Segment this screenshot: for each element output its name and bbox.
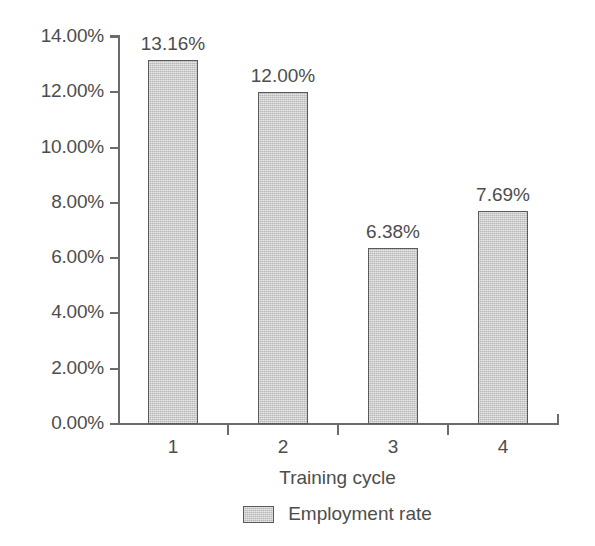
- y-tick-mark: [110, 147, 119, 149]
- bar-value-label: 12.00%: [223, 65, 343, 87]
- y-tick-mark: [110, 257, 119, 259]
- y-tick-mark: [110, 312, 119, 314]
- y-tick-label: 14.00%: [14, 25, 104, 47]
- y-tick-label: 2.00%: [14, 357, 104, 379]
- y-tick-label: 6.00%: [14, 246, 104, 268]
- y-tick-label: 8.00%: [14, 191, 104, 213]
- y-tick-label: 0.00%: [14, 412, 104, 434]
- y-tick-label: 12.00%: [14, 80, 104, 102]
- bar: [258, 92, 308, 424]
- x-axis-end-cap: [557, 414, 559, 425]
- legend-swatch-employment-rate: [243, 506, 274, 523]
- y-tick-mark: [110, 368, 119, 370]
- bar-value-label: 6.38%: [333, 221, 453, 243]
- x-tick-mark: [227, 425, 229, 435]
- bar: [148, 60, 198, 424]
- x-tick-mark: [337, 425, 339, 435]
- y-tick-mark: [110, 91, 119, 93]
- y-tick-mark: [110, 202, 119, 204]
- legend: Employment rate: [0, 503, 595, 525]
- x-tick-label: 1: [143, 436, 203, 458]
- x-axis-title: Training cycle: [0, 467, 595, 489]
- y-axis-line: [118, 35, 120, 425]
- x-axis-title-text: Training cycle: [279, 467, 396, 488]
- bar: [478, 211, 528, 424]
- y-tick-mark: [110, 423, 119, 425]
- bar-chart: 0.00%2.00%4.00%6.00%8.00%10.00%12.00%14.…: [0, 0, 595, 546]
- x-tick-label: 3: [363, 436, 423, 458]
- y-tick-label: 10.00%: [14, 136, 104, 158]
- bar-value-label: 7.69%: [443, 184, 563, 206]
- y-tick-label: 4.00%: [14, 301, 104, 323]
- bar: [368, 248, 418, 424]
- x-tick-label: 4: [473, 436, 533, 458]
- x-tick-label: 2: [253, 436, 313, 458]
- legend-label-employment-rate: Employment rate: [288, 503, 432, 525]
- bar-value-label: 13.16%: [113, 33, 233, 55]
- x-tick-mark: [447, 425, 449, 435]
